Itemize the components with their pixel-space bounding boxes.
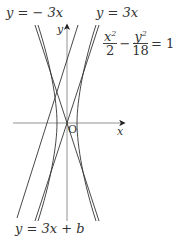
fraction-y: y2 18: [132, 30, 149, 57]
x-axis-label: x: [117, 126, 123, 137]
asymptote-pos-label: y = 3x: [96, 6, 138, 19]
fraction-x: x2 2: [103, 30, 117, 57]
line-label: y = 3x + b: [15, 222, 85, 235]
hyperbola-equation: x2 2 − y2 18 = 1: [103, 30, 174, 57]
y-axis-label: y: [57, 24, 63, 35]
equation-rhs: = 1: [151, 37, 174, 50]
minus-sign: −: [119, 37, 130, 50]
origin-label: O: [68, 124, 77, 135]
asymptote-neg-label: y = − 3x: [6, 6, 63, 19]
